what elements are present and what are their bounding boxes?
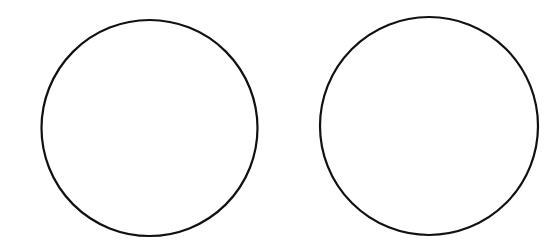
left-circle (42, 20, 258, 236)
right-circle (320, 17, 538, 235)
diagram-svg (0, 0, 552, 247)
diagram-canvas (0, 0, 552, 247)
